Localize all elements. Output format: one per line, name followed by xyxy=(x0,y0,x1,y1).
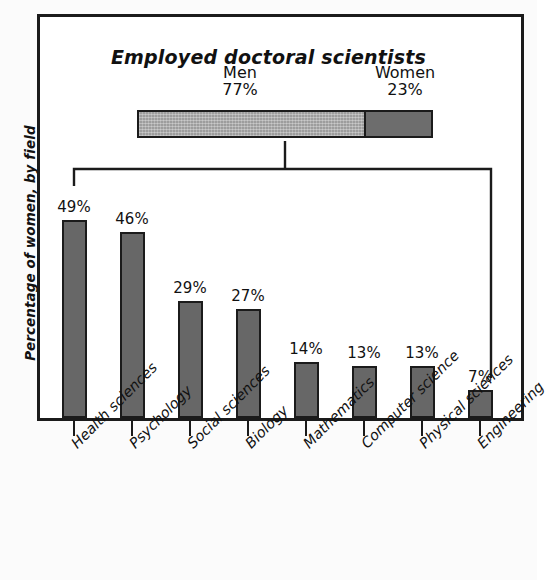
bar-value-label: 46% xyxy=(104,210,160,228)
men-segment-label: Men 77% xyxy=(185,64,295,99)
men-label-text: Men xyxy=(185,64,295,81)
bar xyxy=(62,220,87,418)
women-label-value: 23% xyxy=(345,81,465,98)
bar xyxy=(294,362,319,419)
stacked-summary-bar xyxy=(137,110,433,138)
bar-value-label: 14% xyxy=(278,340,334,358)
bar-slot: 49% xyxy=(46,220,102,418)
bar-plot: 49%46%29%27%14%13%13%7% xyxy=(47,180,524,421)
y-axis-label: Percentage of women, by field xyxy=(22,113,38,373)
women-segment xyxy=(364,112,431,136)
men-segment xyxy=(139,112,364,136)
bar-value-label: 49% xyxy=(46,198,102,216)
men-label-value: 77% xyxy=(185,81,295,98)
bar-value-label: 27% xyxy=(220,287,276,305)
women-segment-label: Women 23% xyxy=(345,64,465,99)
women-label-text: Women xyxy=(345,64,465,81)
bar-value-label: 13% xyxy=(336,344,392,362)
bar-value-label: 29% xyxy=(162,279,218,297)
